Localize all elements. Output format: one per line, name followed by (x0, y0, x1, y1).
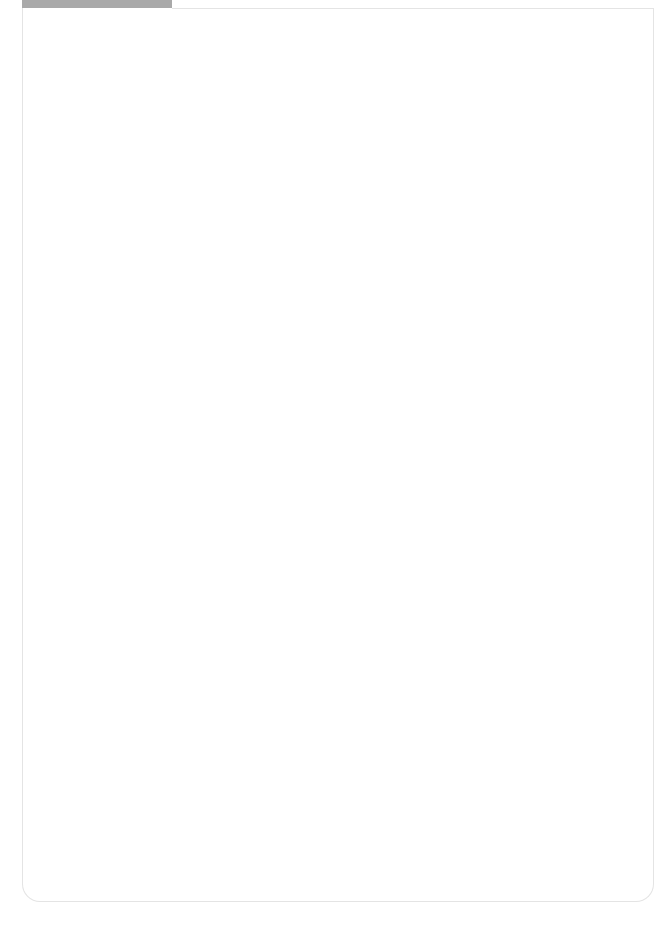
knitting-chart (0, 0, 664, 926)
